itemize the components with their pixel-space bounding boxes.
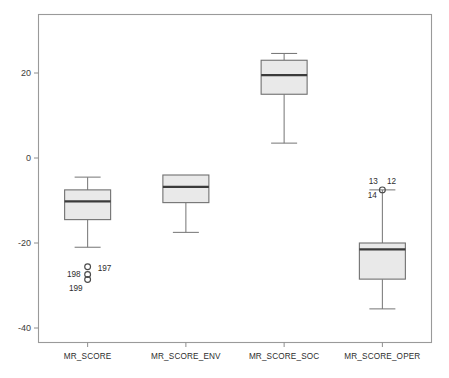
y-tick-label: 20 [21, 68, 31, 78]
y-tick-label: -40 [18, 323, 31, 333]
y-tick-label: -20 [18, 238, 31, 248]
x-tick-label: MR_SCORE_OPER [344, 352, 420, 361]
box-iqr [163, 175, 209, 203]
box-iqr [261, 60, 307, 94]
x-tick-label: MR_SCORE_ENV [151, 352, 221, 361]
outlier-label: 13 [369, 177, 379, 186]
outlier-label: 12 [387, 177, 397, 186]
y-tick-label: 0 [26, 153, 31, 163]
outlier-label: 197 [98, 264, 112, 273]
boxplot-figure: 200-20-40 MR_SCOREMR_SCORE_ENVMR_SCORE_S… [0, 0, 449, 378]
boxplot-canvas: 200-20-40 MR_SCOREMR_SCORE_ENVMR_SCORE_S… [0, 0, 449, 378]
x-tick-label: MR_SCORE_SOC [249, 352, 320, 361]
outlier-label: 198 [67, 270, 81, 279]
x-tick-label: MR_SCORE [64, 352, 112, 361]
box-iqr [65, 190, 111, 220]
figure-background [0, 0, 449, 378]
outlier-label: 199 [69, 284, 83, 293]
outlier-label: 14 [368, 191, 378, 200]
